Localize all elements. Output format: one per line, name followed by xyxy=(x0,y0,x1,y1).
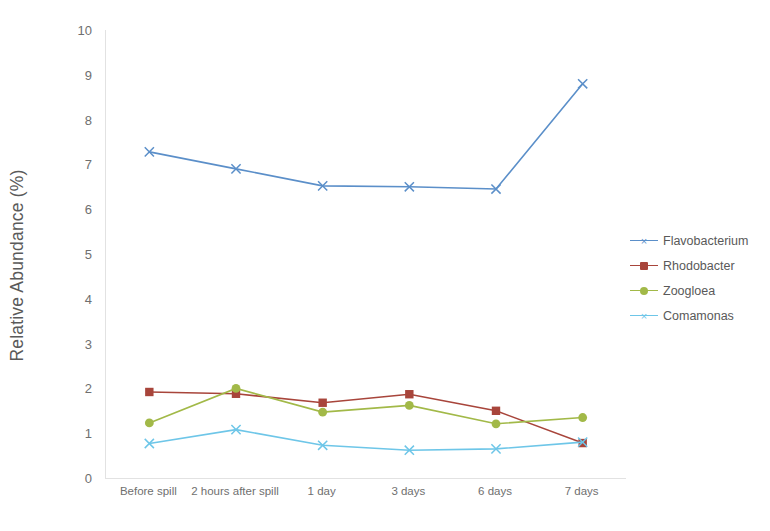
y-tick-label: 7 xyxy=(0,157,102,172)
data-point xyxy=(492,419,501,428)
series-line xyxy=(149,430,582,451)
legend-item-rhodobacter[interactable]: Rhodobacter xyxy=(630,253,768,278)
cross-marker-icon: × xyxy=(640,237,648,245)
x-axis-tick-labels: Before spill2 hours after spill1 day3 da… xyxy=(105,484,625,530)
y-tick-label: 1 xyxy=(0,426,102,441)
legend: ×FlavobacteriumRhodobacterZoogloea×Comam… xyxy=(630,228,768,328)
circle-marker-icon xyxy=(640,287,648,295)
y-tick-label: 10 xyxy=(0,23,102,38)
legend-swatch xyxy=(630,284,658,298)
data-point xyxy=(318,408,327,417)
legend-swatch xyxy=(630,259,658,273)
y-tick-label: 5 xyxy=(0,247,102,262)
y-axis-tick-labels: 012345678910 xyxy=(0,0,102,531)
legend-label: Zoogloea xyxy=(663,284,715,298)
y-tick-label: 8 xyxy=(0,112,102,127)
series-canvas xyxy=(106,30,626,478)
legend-item-comamonas[interactable]: ×Comamonas xyxy=(630,303,768,328)
y-tick-label: 6 xyxy=(0,202,102,217)
plot-area xyxy=(105,30,626,479)
series-flavobacterium xyxy=(145,79,588,193)
data-point xyxy=(578,413,587,422)
y-tick-label: 2 xyxy=(0,381,102,396)
data-point xyxy=(318,399,326,407)
chart-figure: Relative Abundance (%) 012345678910 Befo… xyxy=(0,0,770,531)
legend-item-zoogloea[interactable]: Zoogloea xyxy=(630,278,768,303)
data-point xyxy=(145,388,153,396)
cross-marker-icon: × xyxy=(640,312,648,320)
y-tick-label: 3 xyxy=(0,336,102,351)
series-line xyxy=(149,392,582,443)
y-tick-label: 0 xyxy=(0,471,102,486)
legend-swatch: × xyxy=(630,234,658,248)
legend-label: Flavobacterium xyxy=(663,234,748,248)
legend-label: Rhodobacter xyxy=(663,259,735,273)
legend-item-flavobacterium[interactable]: ×Flavobacterium xyxy=(630,228,768,253)
data-point xyxy=(578,79,587,88)
data-point xyxy=(492,407,500,415)
data-point xyxy=(405,401,414,410)
square-marker-icon xyxy=(640,262,648,270)
data-point xyxy=(232,384,241,393)
y-tick-label: 9 xyxy=(0,67,102,82)
data-point xyxy=(145,418,154,427)
legend-label: Comamonas xyxy=(663,309,734,323)
series-line xyxy=(149,84,582,189)
series-rhodobacter xyxy=(145,388,587,447)
data-point xyxy=(405,390,413,398)
legend-swatch: × xyxy=(630,309,658,323)
series-zoogloea xyxy=(145,384,587,428)
y-tick-label: 4 xyxy=(0,291,102,306)
x-tick-label: 7 days xyxy=(530,484,634,499)
series-comamonas xyxy=(145,425,588,455)
